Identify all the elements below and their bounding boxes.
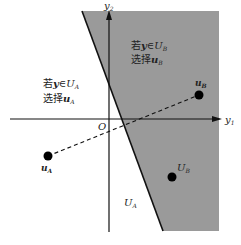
point-uB — [195, 91, 204, 100]
region-b-condition: 若y∈UB — [131, 39, 168, 52]
y-axis-label: y2 — [103, 0, 114, 12]
region-a-action: 选择uA — [43, 92, 75, 105]
UA-region-label: UA — [124, 197, 137, 209]
x-axis-label: y1 — [224, 114, 234, 126]
uA-label: uA — [41, 163, 53, 174]
region-a-condition: 若y∈UA — [43, 77, 80, 90]
point-UB — [168, 173, 177, 182]
origin-label: O — [98, 121, 106, 132]
point-uA — [44, 152, 53, 161]
decision-region-diagram: y2 y1 O 若y∈UB 选择uB 若y∈UA 选择uA uB uA UB U… — [0, 0, 241, 245]
